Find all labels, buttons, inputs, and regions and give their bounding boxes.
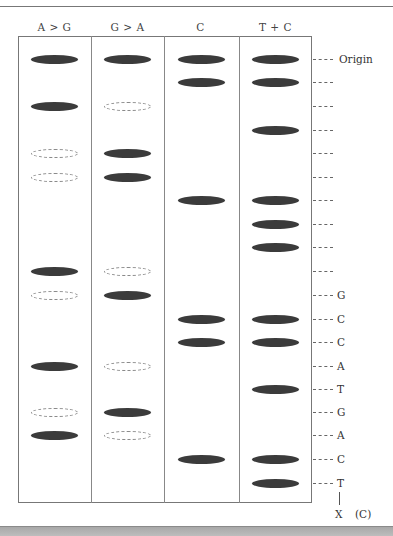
ladder-tick (313, 153, 333, 154)
lane-header: T + C (239, 21, 312, 33)
ladder-tick (313, 82, 333, 83)
band-absent-dashed (104, 431, 151, 440)
ladder-tick (313, 435, 333, 436)
base-label: G (337, 289, 345, 301)
band-solid (31, 362, 78, 371)
lane-divider (164, 36, 165, 503)
base-label: G (337, 406, 345, 418)
lane-header: G > A (91, 21, 164, 33)
base-label: A (337, 429, 345, 441)
ladder-tick (313, 247, 333, 248)
base-label: T (337, 477, 344, 489)
band-absent-dashed (104, 362, 151, 371)
ladder-tick (313, 319, 333, 320)
band-solid (31, 55, 78, 64)
page-bottom-edge (0, 526, 393, 536)
lane-divider (239, 36, 240, 503)
ladder-tick (313, 59, 333, 60)
base-label: C (337, 453, 345, 465)
band-absent-dashed (31, 291, 78, 300)
band-solid (31, 267, 78, 276)
band-solid (178, 55, 225, 64)
band-solid (252, 243, 299, 252)
band-solid (252, 126, 299, 135)
band-solid (252, 315, 299, 324)
base-label: A (337, 360, 345, 372)
band-solid (252, 385, 299, 394)
band-solid (252, 55, 299, 64)
sequence-continuation-line (339, 492, 340, 505)
band-absent-dashed (31, 149, 78, 158)
band-solid (31, 431, 78, 440)
band-absent-dashed (104, 267, 151, 276)
ladder-tick (313, 342, 333, 343)
band-solid (178, 315, 225, 324)
band-solid (252, 455, 299, 464)
lane-header: A > G (18, 21, 91, 33)
base-label: C (337, 313, 345, 325)
ladder-tick (313, 389, 333, 390)
sequence-end-label: X (335, 508, 342, 520)
origin-label: Origin (339, 53, 373, 65)
band-solid (252, 338, 299, 347)
band-solid (104, 291, 151, 300)
ladder-tick (313, 366, 333, 367)
band-solid (252, 479, 299, 488)
ladder-tick (313, 412, 333, 413)
lane-divider (91, 36, 92, 503)
base-label: C (337, 336, 345, 348)
band-solid (104, 173, 151, 182)
band-solid (104, 408, 151, 417)
band-solid (178, 338, 225, 347)
top-rule (0, 6, 393, 7)
lane-header: C (164, 21, 237, 33)
ladder-tick (313, 459, 333, 460)
band-solid (252, 220, 299, 229)
base-label: T (337, 383, 344, 395)
band-solid (252, 196, 299, 205)
band-solid (252, 78, 299, 87)
ladder-tick (313, 177, 333, 178)
band-absent-dashed (31, 408, 78, 417)
figure-panel-label: (C) (355, 508, 371, 520)
band-solid (31, 102, 78, 111)
band-solid (178, 196, 225, 205)
ladder-tick (313, 483, 333, 484)
ladder-tick (313, 130, 333, 131)
band-solid (178, 78, 225, 87)
band-solid (178, 455, 225, 464)
ladder-tick (313, 271, 333, 272)
band-solid (104, 149, 151, 158)
band-absent-dashed (31, 173, 78, 182)
band-absent-dashed (104, 102, 151, 111)
ladder-tick (313, 200, 333, 201)
band-solid (104, 55, 151, 64)
ladder-tick (313, 295, 333, 296)
ladder-tick (313, 106, 333, 107)
ladder-tick (313, 224, 333, 225)
